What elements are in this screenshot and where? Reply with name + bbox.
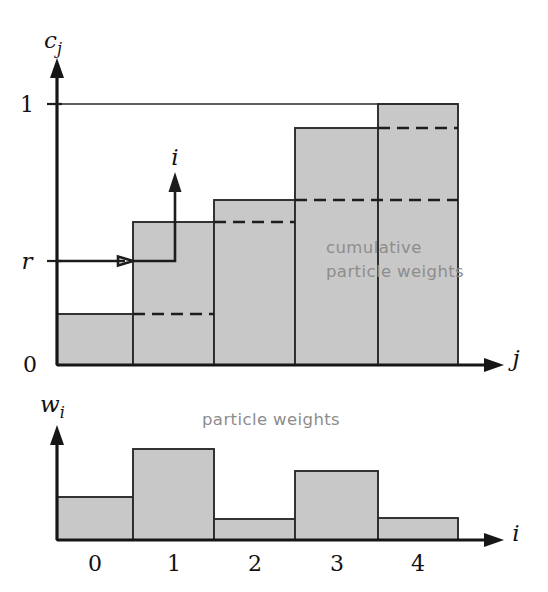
top-x-axis-arrowhead — [484, 358, 504, 372]
particle-weights-annotation: particle weights — [202, 410, 340, 429]
bottom-panel-bars — [57, 449, 458, 540]
bottom-xtick-label-4: 4 — [411, 551, 425, 576]
top-y-axis-label: cj — [44, 27, 62, 58]
cumulative-annotation-line2: particle weights — [326, 262, 464, 281]
top-tick-label-r: r — [22, 248, 35, 274]
particle-resampling-figure: 1 r 0 cj j i cumulative particle weights — [0, 0, 548, 592]
top-y-axis-arrowhead — [50, 58, 64, 78]
top-tick-label-one: 1 — [20, 92, 34, 117]
weight-bar-0 — [57, 497, 133, 540]
figure-root: 1 r 0 cj j i cumulative particle weights — [0, 0, 548, 592]
top-x-axis-label: j — [507, 345, 519, 371]
weight-bar-2 — [214, 519, 295, 540]
cumulative-bar-0 — [57, 314, 133, 365]
cumulative-bar-2 — [214, 200, 295, 365]
bottom-xtick-label-3: 3 — [330, 551, 344, 576]
cumulative-bar-4 — [378, 104, 458, 365]
bottom-x-axis-label: i — [512, 520, 519, 546]
bottom-y-axis-arrowhead — [50, 425, 64, 445]
cumulative-annotation-line1: cumulative — [326, 238, 422, 257]
top-tick-label-zero: 0 — [23, 352, 37, 377]
bottom-xtick-label-2: 2 — [248, 551, 262, 576]
cumulative-bar-1 — [133, 222, 214, 365]
weight-bar-1 — [133, 449, 214, 540]
threshold-arrow-r — [57, 257, 133, 266]
bottom-y-axis-label: wi — [40, 391, 65, 422]
top-panel-bars — [57, 104, 458, 365]
bottom-panel: wi i particle weights 0 1 2 3 4 — [40, 391, 520, 576]
weight-bar-4 — [378, 518, 458, 540]
weight-bar-3 — [295, 471, 378, 540]
bottom-xtick-label-0: 0 — [88, 551, 102, 576]
bottom-x-axis-arrowhead — [484, 533, 504, 547]
top-panel: 1 r 0 cj j i cumulative particle weights — [20, 27, 520, 377]
selected-index-label: i — [171, 144, 178, 170]
selected-index-arrow-head — [169, 172, 182, 192]
bottom-xtick-label-1: 1 — [167, 551, 181, 576]
